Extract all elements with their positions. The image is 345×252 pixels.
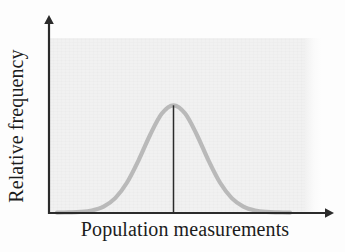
plot-area xyxy=(0,0,345,252)
figure-container: Relative frequency Population measuremen… xyxy=(0,0,345,252)
x-axis-label: Population measurements xyxy=(49,218,321,241)
y-axis-label-text: Relative frequency xyxy=(5,49,30,202)
x-axis-arrow-icon xyxy=(325,208,334,218)
y-axis-arrow-icon xyxy=(44,15,54,24)
y-axis-label: Relative frequency xyxy=(0,0,34,252)
